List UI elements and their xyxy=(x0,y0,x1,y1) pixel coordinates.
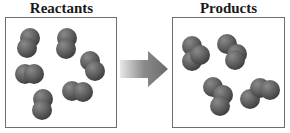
atom xyxy=(24,64,44,84)
atom xyxy=(190,45,210,65)
atom xyxy=(17,38,37,58)
products-title: Products xyxy=(172,0,285,17)
atom xyxy=(225,50,245,70)
reaction-arrow-icon xyxy=(120,49,170,89)
atom xyxy=(32,100,52,120)
atom xyxy=(73,82,93,102)
atom xyxy=(56,39,76,59)
reactants-title: Reactants xyxy=(5,0,118,17)
atom xyxy=(260,80,280,100)
atom xyxy=(85,61,105,81)
atom xyxy=(210,96,230,116)
